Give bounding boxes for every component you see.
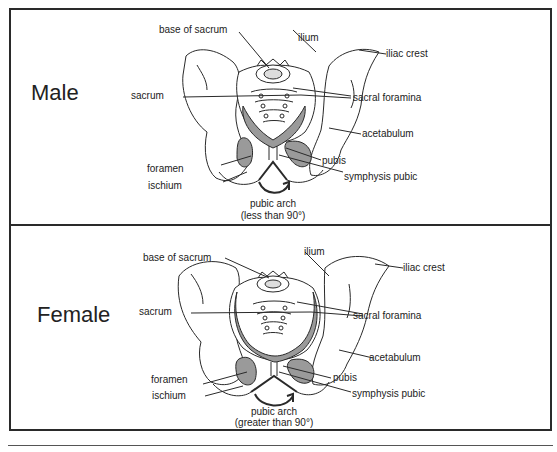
sex-label-female: Female (37, 302, 110, 328)
label-symphysis-pubic: symphysis pubic (352, 388, 425, 400)
label-pubis: pubis (322, 155, 346, 167)
male-pelvis-illustration (11, 10, 550, 224)
label-ilium: ilium (298, 32, 319, 44)
label-sacrum: sacrum (139, 306, 172, 318)
label-sacral-foramina: sacral foramina (353, 92, 421, 104)
label-sacral-foramina: sacral foramina (353, 310, 421, 322)
label-symphysis-pubic: symphysis pubic (344, 171, 417, 183)
label-base-of-sacrum: base of sacrum (143, 252, 211, 264)
male-panel: Male base of sacrum ilium iliac crest sa… (11, 10, 550, 224)
label-ilium: ilium (304, 246, 325, 258)
label-sacrum: sacrum (131, 90, 164, 102)
female-panel: Female base of sacrum ilium iliac crest … (11, 226, 550, 427)
label-pubic-arch-angle: (greater than 90°) (214, 417, 334, 429)
label-pubic-arch: pubic arch (233, 198, 313, 210)
label-foramen: foramen (151, 374, 188, 386)
label-pubis: pubis (333, 372, 357, 384)
label-ischium: ischium (152, 390, 186, 402)
label-acetabulum: acetabulum (362, 128, 414, 140)
label-iliac-crest: iliac crest (386, 48, 428, 60)
label-pubic-arch-angle: (less than 90°) (223, 210, 323, 222)
label-base-of-sacrum: base of sacrum (159, 24, 227, 36)
sex-label-male: Male (31, 80, 79, 106)
label-iliac-crest: iliac crest (403, 262, 445, 274)
bottom-rule (8, 445, 553, 446)
label-acetabulum: acetabulum (369, 352, 421, 364)
label-ischium: ischium (148, 180, 182, 192)
label-foramen: foramen (147, 163, 184, 175)
